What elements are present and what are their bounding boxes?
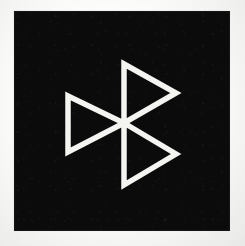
triangle-trefoil-mark: [0, 0, 245, 246]
triangle-left: [68, 96, 124, 152]
triangle-upper-right: [124, 64, 176, 123]
image-canvas: [0, 0, 245, 246]
triangle-lower-right: [124, 123, 176, 185]
